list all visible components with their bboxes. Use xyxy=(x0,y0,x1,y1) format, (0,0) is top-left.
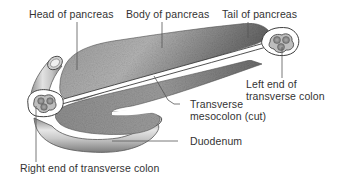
label-mesocolon-line1: Transverse xyxy=(190,98,243,110)
right-colon-cross-section xyxy=(28,90,63,117)
label-tail-of-pancreas: Tail of pancreas xyxy=(222,8,297,20)
label-body-of-pancreas: Body of pancreas xyxy=(126,8,209,20)
label-left-end-colon-line1: Left end of xyxy=(246,78,297,90)
label-head-of-pancreas: Head of pancreas xyxy=(29,8,114,20)
left-colon-cross-section xyxy=(262,28,299,56)
label-right-end-colon: Right end of transverse colon xyxy=(20,162,159,174)
label-duodenum: Duodenum xyxy=(190,135,242,147)
label-left-end-colon-line2: transverse colon xyxy=(246,90,325,102)
label-mesocolon-line2: mesocolon (cut) xyxy=(190,110,266,122)
